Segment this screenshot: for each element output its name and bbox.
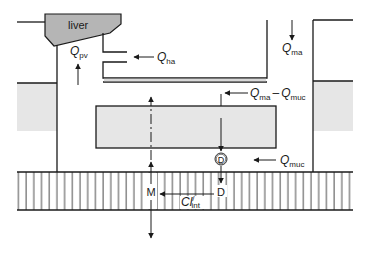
intestinal-hepatic-flow-diagram: liver Qpv Qha Qma Qma–Qmuc D D Qmuc M Cl… xyxy=(0,0,366,255)
d-enterocyte-label: D xyxy=(217,186,225,198)
q-pv-label: Qpv xyxy=(70,44,88,60)
right-tissue-block xyxy=(313,81,353,131)
liver-label: liver xyxy=(68,19,89,31)
left-tissue-block xyxy=(17,83,57,131)
q-ha-label: Qha xyxy=(157,50,176,66)
q-ma-label: Qma xyxy=(282,41,303,57)
q-muc-label: Qmuc xyxy=(280,153,304,169)
hepatic-artery-lower-wall xyxy=(103,20,267,78)
mucosa-compartment xyxy=(96,106,276,148)
q-ma-minus-q-muc-label: Qma–Qmuc xyxy=(250,86,306,102)
d-circled-label: D xyxy=(218,155,225,165)
hepatic-artery-upper-wall xyxy=(103,33,127,52)
hepatic-artery-shading xyxy=(104,79,266,82)
m-label: M xyxy=(146,186,155,198)
